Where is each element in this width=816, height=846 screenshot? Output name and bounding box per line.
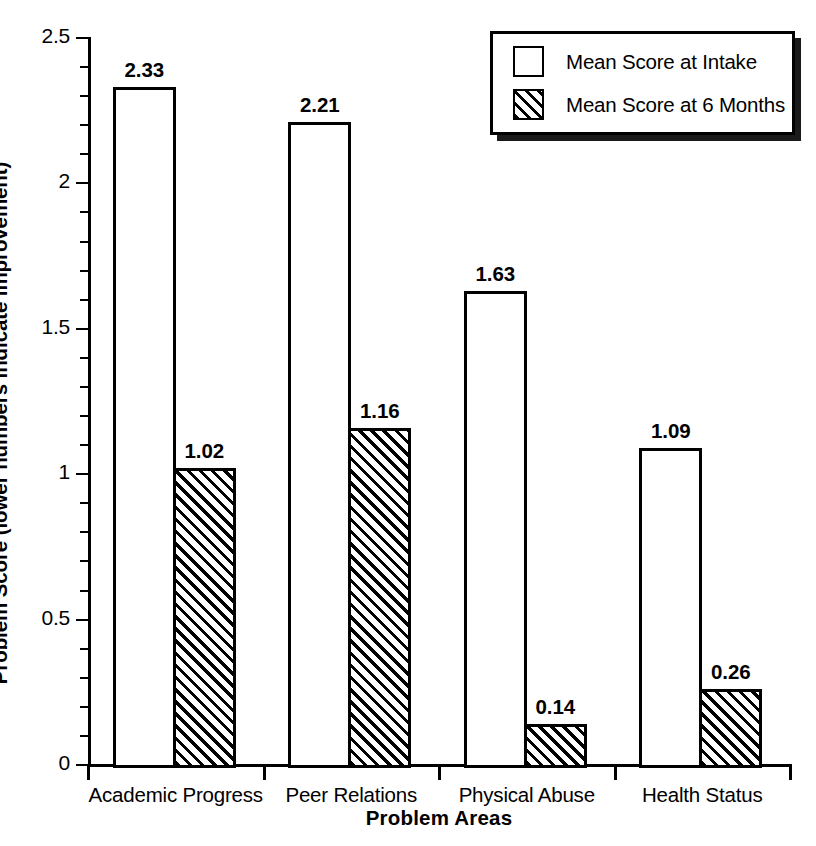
y-tick-minor <box>80 677 89 679</box>
y-tick-minor <box>80 270 89 272</box>
legend-item-intake: Mean Score at Intake <box>513 46 757 77</box>
x-tick <box>87 766 90 780</box>
y-tick-major <box>76 37 89 39</box>
bar <box>288 122 351 768</box>
y-tick-major <box>76 328 89 330</box>
bar <box>639 448 702 768</box>
y-tick-major <box>76 619 89 621</box>
y-tick-major <box>76 182 89 184</box>
y-tick-minor <box>80 502 89 504</box>
y-axis-line <box>88 37 91 767</box>
x-axis-category-label: Academic Progress <box>88 783 264 807</box>
bar <box>699 689 762 768</box>
y-tick-label: 1 <box>0 460 70 484</box>
y-tick-label: 2.5 <box>0 24 70 48</box>
y-tick-label: 0 <box>0 751 70 775</box>
legend-label-intake: Mean Score at Intake <box>566 50 757 74</box>
y-tick-minor <box>80 241 89 243</box>
y-tick-minor <box>80 153 89 155</box>
x-tick <box>789 766 792 780</box>
y-tick-minor <box>80 124 89 126</box>
legend-label-six-months: Mean Score at 6 Months <box>566 93 785 117</box>
x-axis-category-label: Health Status <box>615 783 791 807</box>
bar-value-label: 0.14 <box>512 695 599 719</box>
y-tick-label: 1.5 <box>0 315 70 339</box>
bar-value-label: 1.09 <box>627 419 714 443</box>
y-tick-minor <box>80 735 89 737</box>
y-tick-minor <box>80 211 89 213</box>
x-axis-category-label: Peer Relations <box>264 783 440 807</box>
y-tick-major <box>76 473 89 475</box>
x-tick <box>614 766 617 780</box>
x-axis-category-label: Physical Abuse <box>439 783 615 807</box>
bar-value-label: 0.26 <box>687 660 774 684</box>
bar-value-label: 1.02 <box>161 439 248 463</box>
bar <box>348 428 411 768</box>
bar-value-label: 1.63 <box>452 262 539 286</box>
y-tick-minor <box>80 590 89 592</box>
legend: Mean Score at Intake Mean Score at 6 Mon… <box>490 31 795 135</box>
legend-swatch-hatched <box>513 89 544 120</box>
y-tick-minor <box>80 95 89 97</box>
y-tick-minor <box>80 560 89 562</box>
y-tick-minor <box>80 299 89 301</box>
legend-item-six-months: Mean Score at 6 Months <box>513 89 785 120</box>
y-tick-label: 2 <box>0 169 70 193</box>
bar-value-label: 2.33 <box>101 58 188 82</box>
x-tick <box>438 766 441 780</box>
y-tick-minor <box>80 66 89 68</box>
y-tick-label: 0.5 <box>0 606 70 630</box>
bar-chart-figure: Problem Score (lower numbers indicate im… <box>0 0 816 846</box>
y-tick-minor <box>80 706 89 708</box>
y-tick-minor <box>80 648 89 650</box>
x-axis-title: Problem Areas <box>88 806 790 830</box>
y-tick-minor <box>80 531 89 533</box>
x-tick <box>263 766 266 780</box>
bar-value-label: 2.21 <box>276 93 363 117</box>
legend-swatch-open <box>513 46 544 77</box>
y-tick-minor <box>80 357 89 359</box>
y-axis-title: Problem Score (lower numbers indicate im… <box>0 0 34 846</box>
bar <box>113 87 176 768</box>
bar-value-label: 1.16 <box>336 399 423 423</box>
bar <box>173 468 236 768</box>
y-tick-minor <box>80 415 89 417</box>
y-tick-minor <box>80 386 89 388</box>
bar <box>524 724 587 768</box>
y-tick-minor <box>80 444 89 446</box>
